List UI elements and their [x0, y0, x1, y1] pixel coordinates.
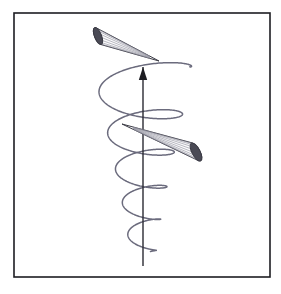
conical-helix-diagram [0, 0, 281, 294]
figure-root: Conical helix with two emission cones ar… [0, 0, 281, 294]
